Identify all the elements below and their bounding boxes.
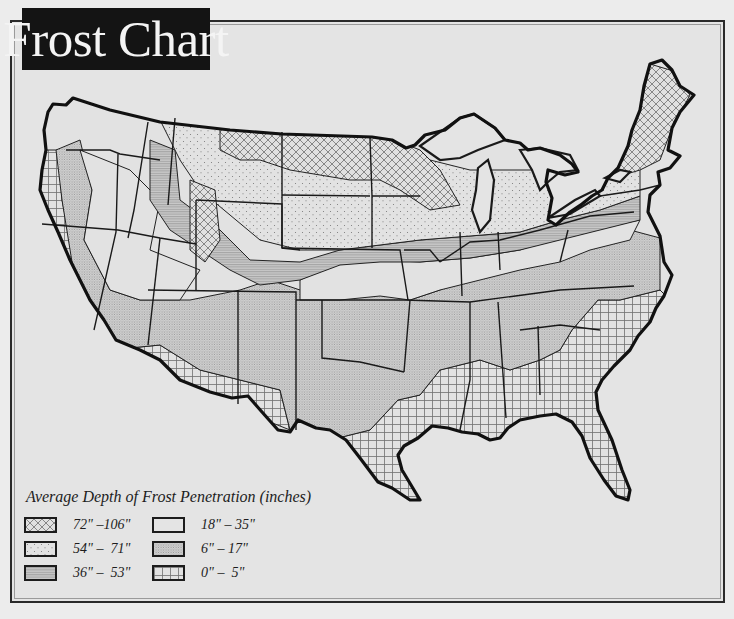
- legend: Average Depth of Frost Penetration (inch…: [24, 488, 311, 581]
- crosshatch-swatch-icon: [24, 517, 57, 533]
- stipple-swatch-icon: [152, 541, 185, 557]
- horizontal-lines-swatch-icon: [24, 565, 57, 581]
- dots-swatch-icon: [24, 541, 57, 557]
- legend-item-0-5: 0" – 5": [152, 565, 282, 581]
- legend-item-54-71: 54" – 71": [24, 541, 152, 557]
- legend-label: 6" – 17": [201, 541, 248, 557]
- legend-label: 54" – 71": [73, 541, 130, 557]
- grid-swatch-icon: [152, 565, 185, 581]
- legend-item-18-35: 18" – 35": [152, 517, 282, 533]
- legend-title: Average Depth of Frost Penetration (inch…: [26, 488, 311, 506]
- blank-swatch-icon: [152, 517, 185, 533]
- legend-label: 36" – 53": [73, 565, 130, 581]
- legend-label: 72" –106": [73, 517, 130, 533]
- legend-label: 18" – 35": [201, 517, 255, 533]
- legend-item-6-17: 6" – 17": [152, 541, 282, 557]
- legend-item-72-106: 72" –106": [24, 517, 152, 533]
- page-title: Frost Chart: [3, 14, 228, 65]
- title-banner: Frost Chart: [22, 8, 210, 70]
- legend-label: 0" – 5": [201, 565, 244, 581]
- legend-item-36-53: 36" – 53": [24, 565, 152, 581]
